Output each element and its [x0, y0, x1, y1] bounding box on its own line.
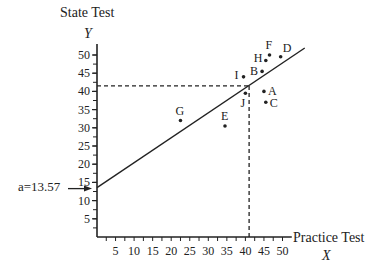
point-label-j: J: [240, 96, 245, 110]
y-axis-title: State Test: [60, 6, 114, 20]
y-tick-label: 45: [78, 66, 90, 80]
y-tick-label: 5: [84, 212, 90, 226]
y-axis-variable: Y: [84, 27, 92, 41]
data-point-e: [223, 124, 227, 128]
x-tick-label: 15: [147, 244, 159, 258]
point-label-d: D: [283, 41, 292, 55]
point-label-i: I: [235, 68, 239, 82]
x-tick-label: 45: [258, 244, 270, 258]
y-tick-label: 25: [78, 139, 90, 153]
point-label-g: G: [175, 104, 184, 118]
point-label-f: F: [266, 38, 273, 52]
y-tick-label: 30: [78, 121, 90, 135]
point-label-e: E: [221, 109, 228, 123]
regression-line: [97, 48, 305, 188]
x-tick-label: 50: [277, 244, 289, 258]
data-point-i: [242, 75, 246, 79]
data-point-a: [262, 90, 266, 94]
point-label-c: C: [270, 96, 278, 110]
x-tick-label: 35: [221, 244, 233, 258]
x-tick-label: 30: [202, 244, 214, 258]
x-tick-label: 5: [113, 244, 119, 258]
data-point-b: [260, 70, 264, 74]
x-axis-title: Practice Test: [293, 231, 364, 245]
x-tick-label: 40: [239, 244, 251, 258]
point-label-h: H: [254, 51, 263, 65]
data-point-c: [264, 101, 268, 105]
intercept-annotation: a=13.57: [18, 180, 60, 193]
x-tick-label: 20: [165, 244, 177, 258]
data-point-j: [244, 91, 248, 95]
y-tick-label: 10: [78, 194, 90, 208]
y-tick-label: 50: [78, 48, 90, 62]
y-tick-label: 40: [78, 84, 90, 98]
data-point-g: [179, 119, 183, 123]
data-point-h: [264, 59, 268, 63]
y-tick-label: 20: [78, 157, 90, 171]
data-point-f: [268, 53, 272, 57]
x-axis-variable: X: [322, 249, 331, 263]
data-point-d: [279, 55, 283, 59]
point-label-b: B: [250, 64, 258, 78]
x-tick-label: 10: [128, 244, 140, 258]
y-tick-label: 35: [78, 103, 90, 117]
x-tick-label: 25: [184, 244, 196, 258]
